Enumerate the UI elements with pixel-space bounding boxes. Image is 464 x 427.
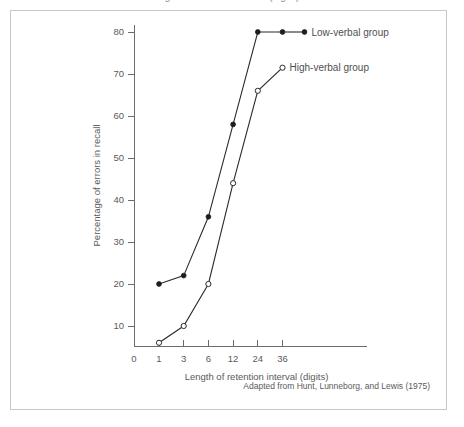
- data-point: [231, 122, 236, 127]
- data-point: [255, 88, 260, 93]
- y-axis-tick-label: 50: [113, 152, 124, 163]
- data-point: [280, 65, 285, 70]
- x-axis-tick-label: 6: [206, 353, 211, 364]
- series-legend-marker: [302, 30, 307, 35]
- data-point: [157, 282, 162, 287]
- data-point: [181, 323, 186, 328]
- series-label: Low-verbal group: [312, 27, 390, 38]
- data-point: [255, 30, 260, 35]
- x-axis-tick-label: 0: [131, 353, 136, 364]
- y-axis-tick-label: 40: [113, 194, 124, 205]
- x-axis-tick-label: 1: [156, 353, 161, 364]
- series-label: High-verbal group: [290, 62, 370, 73]
- series-line-1: [159, 32, 283, 284]
- y-axis-tick-label: 70: [113, 68, 124, 79]
- plot-area: 10203040506070800136122436Length of rete…: [11, 11, 448, 411]
- source-note: Adapted from Hunt, Lunneborg, and Lewis …: [243, 381, 430, 391]
- y-axis-tick-label: 30: [113, 236, 124, 247]
- data-point: [231, 181, 236, 186]
- x-axis-tick-label: 3: [181, 353, 186, 364]
- y-axis-tick-label: 60: [113, 110, 124, 121]
- top-cut-text: Length of retention interval (digits): [148, 0, 299, 2]
- y-axis-tick-label: 20: [113, 278, 124, 289]
- data-point: [181, 273, 186, 278]
- data-point: [156, 340, 161, 345]
- line-chart: 10203040506070800136122436Length of rete…: [11, 11, 448, 411]
- series-line-2: [159, 68, 283, 343]
- y-axis-tick-label: 80: [113, 26, 124, 37]
- y-axis-tick-label: 10: [113, 320, 124, 331]
- x-axis-tick-label: 12: [228, 353, 239, 364]
- figure-frame: 10203040506070800136122436Length of rete…: [10, 10, 447, 410]
- x-axis-tick-label: 24: [253, 353, 264, 364]
- top-cut-text-strip: Length of retention interval (digits): [0, 0, 464, 9]
- x-axis-tick-label: 36: [277, 353, 288, 364]
- y-axis-title: Percentage of errors in recall: [91, 125, 102, 247]
- data-point: [206, 214, 211, 219]
- data-point: [206, 281, 211, 286]
